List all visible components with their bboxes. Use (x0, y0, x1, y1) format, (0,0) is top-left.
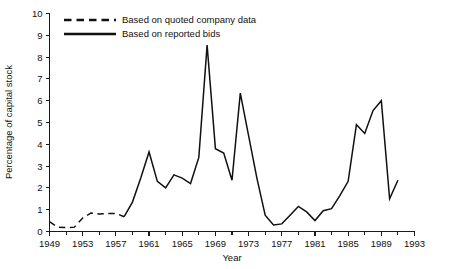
y-tick-label: 7 (37, 73, 42, 84)
x-tick-label: 1953 (72, 238, 93, 249)
x-axis-tick-labels: 1949195319571961196519691973197719811985… (39, 238, 425, 249)
y-tick-label: 1 (37, 204, 42, 215)
x-tick-label: 1949 (39, 238, 60, 249)
y-tick-label: 9 (37, 30, 42, 41)
x-tick-label: 1961 (138, 238, 159, 249)
y-axis-title: Percentage of capital stock (3, 65, 14, 179)
chart-axes (50, 14, 415, 232)
x-tick-label: 1957 (105, 238, 126, 249)
data-series-group (50, 45, 398, 227)
line-chart: 012345678910 194919531957196119651969197… (0, 0, 449, 269)
y-tick-label: 6 (37, 95, 42, 106)
legend-label-quoted-company-data: Based on quoted company data (122, 14, 257, 25)
y-tick-label: 10 (32, 8, 43, 19)
legend-label-reported-bids: Based on reported bids (122, 28, 220, 39)
x-tick-label: 1965 (172, 238, 193, 249)
series-line-quoted-company-data (50, 213, 125, 228)
chart-legend: Based on quoted company data Based on re… (64, 14, 257, 39)
y-tick-label: 3 (37, 161, 42, 172)
y-axis-tick-labels: 012345678910 (32, 8, 43, 237)
y-tick-label: 5 (37, 117, 42, 128)
x-tick-label: 1993 (404, 238, 425, 249)
x-tick-label: 1989 (371, 238, 392, 249)
y-tick-label: 2 (37, 182, 42, 193)
series-line-reported-bids (124, 45, 398, 225)
y-tick-label: 0 (37, 226, 42, 237)
x-tick-label: 1981 (304, 238, 325, 249)
x-tick-label: 1973 (238, 238, 259, 249)
y-tick-label: 8 (37, 52, 42, 63)
x-tick-label: 1969 (205, 238, 226, 249)
x-axis-title: Year (222, 252, 241, 263)
x-axis-ticks (50, 232, 415, 237)
chart-container: 012345678910 194919531957196119651969197… (0, 0, 449, 269)
y-tick-label: 4 (37, 139, 42, 150)
y-axis-ticks (46, 14, 50, 232)
x-tick-label: 1985 (338, 238, 359, 249)
x-tick-label: 1977 (271, 238, 292, 249)
